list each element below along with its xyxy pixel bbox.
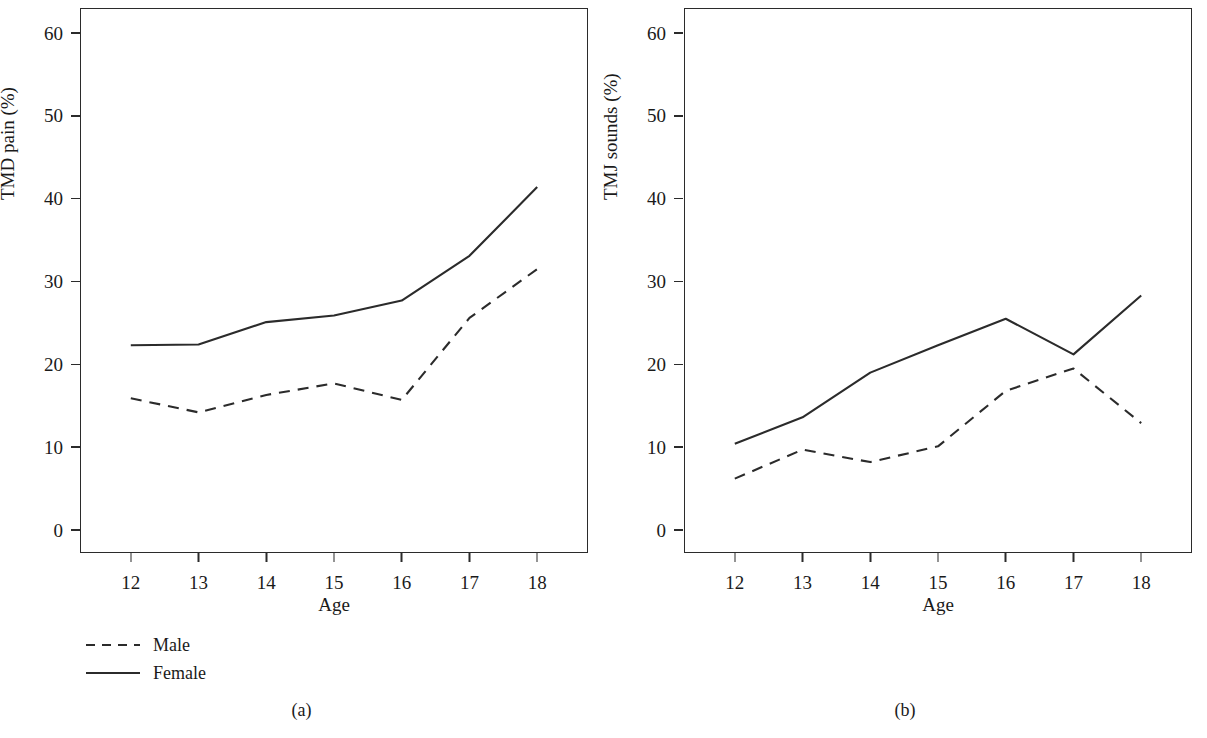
plot-lines-b [684, 8, 1192, 553]
x-axis-a: 12131415161718 [80, 553, 588, 599]
y-tick-label: 0 [657, 521, 675, 540]
x-tick-13: 13 [189, 553, 208, 592]
y-tick-mark [71, 32, 80, 34]
y-tick-mark [674, 32, 683, 34]
series-line-male [735, 368, 1141, 478]
y-tick-mark [674, 529, 683, 531]
x-tick-mark [1005, 553, 1007, 562]
y-tick-mark [71, 198, 80, 200]
x-tick-mark [734, 553, 736, 562]
y-tick-label: 10 [44, 438, 71, 457]
x-tick-label: 13 [189, 573, 208, 592]
y-tick-label: 20 [647, 355, 674, 374]
x-tick-mark [802, 553, 804, 562]
x-tick-13: 13 [793, 553, 812, 592]
y-tick-mark [71, 115, 80, 117]
x-tick-label: 12 [121, 573, 140, 592]
x-tick-mark [265, 553, 267, 562]
plot-lines-a [80, 8, 588, 553]
x-tick-16: 16 [392, 553, 411, 592]
x-tick-mark [198, 553, 200, 562]
x-tick-16: 16 [996, 553, 1015, 592]
x-tick-mark [333, 553, 335, 562]
x-tick-14: 14 [861, 553, 880, 592]
dashed-line-icon [85, 639, 141, 651]
y-tick-mark [71, 446, 80, 448]
x-tick-label: 13 [793, 573, 812, 592]
x-tick-18: 18 [528, 553, 547, 592]
x-tick-17: 17 [1064, 553, 1083, 592]
y-tick-label: 50 [647, 106, 674, 125]
series-line-female [131, 187, 537, 345]
x-axis-b: 12131415161718 [684, 553, 1192, 599]
series-line-female [735, 296, 1141, 444]
y-tick-label: 30 [647, 272, 674, 291]
y-tick-mark [674, 364, 683, 366]
y-tick-label: 30 [44, 272, 71, 291]
y-tick-mark [674, 198, 683, 200]
x-tick-12: 12 [725, 553, 744, 592]
x-tick-mark [1140, 553, 1142, 562]
x-axis-title-a: Age [80, 594, 588, 616]
y-tick-mark [674, 115, 683, 117]
x-tick-mark [937, 553, 939, 562]
x-tick-label: 15 [325, 573, 344, 592]
legend-item-male-a: Male [85, 631, 206, 659]
y-axis-title-b: TMJ sounds (%) [600, 0, 622, 200]
figure-container: 0102030405060 TMD pain (%) 1213141516171… [0, 0, 1207, 738]
x-tick-12: 12 [121, 553, 140, 592]
y-tick-label: 50 [44, 106, 71, 125]
y-tick-label: 0 [54, 521, 72, 540]
y-tick-label: 60 [647, 24, 674, 43]
y-axis-title-a: TMD pain (%) [0, 0, 19, 200]
legend-label-female-a: Female [153, 664, 206, 682]
panel-b: 0102030405060 TMJ sounds (%) 12131415161… [603, 0, 1207, 738]
x-tick-label: 16 [392, 573, 411, 592]
x-tick-label: 14 [257, 573, 276, 592]
y-tick-mark [71, 281, 80, 283]
x-tick-mark [469, 553, 471, 562]
x-tick-label: 14 [861, 573, 880, 592]
y-tick-label: 60 [44, 24, 71, 43]
y-tick-label: 40 [647, 189, 674, 208]
legend-label-male-a: Male [153, 636, 190, 654]
plot-area-b [684, 8, 1192, 553]
y-tick-mark [674, 281, 683, 283]
plot-area-a [80, 8, 588, 553]
x-tick-mark [130, 553, 132, 562]
x-tick-15: 15 [929, 553, 948, 592]
x-tick-label: 12 [725, 573, 744, 592]
x-tick-18: 18 [1132, 553, 1151, 592]
x-tick-label: 17 [460, 573, 479, 592]
y-tick-mark [674, 446, 683, 448]
x-tick-mark [869, 553, 871, 562]
y-tick-label: 10 [647, 438, 674, 457]
panel-a: 0102030405060 TMD pain (%) 1213141516171… [0, 0, 603, 738]
x-tick-mark [536, 553, 538, 562]
solid-line-icon [85, 667, 141, 679]
y-tick-label: 40 [44, 189, 71, 208]
series-line-male [131, 269, 537, 412]
x-tick-label: 18 [1132, 573, 1151, 592]
caption-a: (a) [0, 700, 603, 721]
x-axis-title-b: Age [684, 594, 1192, 616]
y-tick-label: 20 [44, 355, 71, 374]
x-tick-15: 15 [325, 553, 344, 592]
x-tick-17: 17 [460, 553, 479, 592]
y-tick-mark [71, 529, 80, 531]
x-tick-label: 15 [929, 573, 948, 592]
legend-a: Male Female [85, 631, 206, 687]
legend-item-female-a: Female [85, 659, 206, 687]
caption-b: (b) [603, 700, 1207, 721]
x-tick-mark [1073, 553, 1075, 562]
x-tick-label: 16 [996, 573, 1015, 592]
x-tick-label: 18 [528, 573, 547, 592]
x-tick-label: 17 [1064, 573, 1083, 592]
x-tick-mark [401, 553, 403, 562]
y-tick-mark [71, 364, 80, 366]
x-tick-14: 14 [257, 553, 276, 592]
